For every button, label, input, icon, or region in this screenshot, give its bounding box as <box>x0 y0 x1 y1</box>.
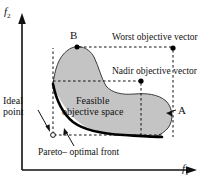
objective-space-diagram: f2 f1 B A Worst objective vector Nadir o… <box>0 0 211 182</box>
pareto-front-leader-line <box>66 132 74 146</box>
pareto-optimal-front-label: Pareto– optimal front <box>38 148 119 158</box>
nadir-objective-vector-label: Nadir objective vector <box>112 67 197 77</box>
feasible-objective-space-region <box>53 47 172 137</box>
point-b-label: B <box>70 30 77 42</box>
feasible-objective-space-label: Feasible objective space <box>62 96 123 117</box>
worst-objective-vector-label: Worst objective vector <box>112 33 198 43</box>
ideal-point-marker <box>51 133 56 138</box>
x-axis-label: f1 <box>182 163 189 178</box>
y-axis-arrowhead <box>18 13 26 24</box>
ideal-point-label: Ideal point <box>3 96 24 117</box>
ideal-point-label-line2: point <box>3 107 24 118</box>
x-axis-label-subscript: 1 <box>185 169 189 177</box>
y-axis-label-subscript: 2 <box>7 12 11 20</box>
feasible-label-line2: objective space <box>62 107 123 118</box>
ideal-point-label-line1: Ideal <box>3 96 24 107</box>
nadir-objective-vector-marker <box>138 78 143 83</box>
worst-objective-vector-marker <box>170 45 175 50</box>
point-a-label: A <box>178 105 186 117</box>
point-b-marker <box>75 45 80 50</box>
y-axis-label: f2 <box>4 6 11 21</box>
ideal-point-leader-line <box>38 110 48 128</box>
feasible-label-line1: Feasible <box>62 96 123 107</box>
